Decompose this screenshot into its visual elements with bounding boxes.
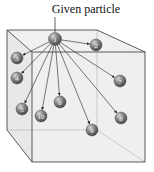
particle-5: 5 (16, 103, 28, 115)
particle-label: 4 (15, 75, 19, 83)
particle-1-given: 1 (49, 33, 62, 46)
particle-label: 9 (90, 127, 94, 135)
cube-front-face (32, 52, 145, 162)
particle-4: 4 (11, 72, 23, 84)
particle-label: 8 (119, 115, 123, 123)
particle-10: 10 (35, 110, 47, 122)
cube-diagram: 23456789101 (0, 0, 154, 172)
particle-7: 7 (114, 75, 126, 87)
particle-label: 1 (53, 36, 57, 44)
particle-9: 9 (86, 124, 98, 136)
particle-label: 10 (38, 113, 46, 121)
particle-6: 6 (54, 96, 66, 108)
particle-label: 3 (15, 55, 19, 63)
particle-3: 3 (11, 52, 23, 64)
particle-label: 5 (20, 106, 24, 114)
particle-label: 2 (94, 42, 98, 50)
particle-label: 7 (118, 78, 122, 86)
particle-2: 2 (90, 39, 102, 51)
particle-label: 6 (58, 99, 62, 107)
particle-8: 8 (115, 112, 127, 124)
cube (7, 30, 145, 162)
